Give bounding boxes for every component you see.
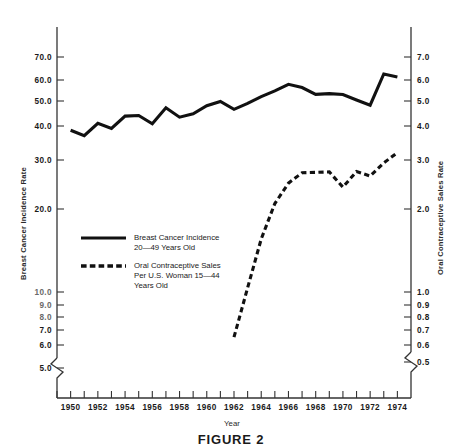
x-tick-label-1956: 1956 bbox=[142, 403, 162, 412]
left-tick-label-5: 5.0 bbox=[39, 364, 52, 373]
x-axis-tick-labels: 1950195219541956195819601962196419661968… bbox=[61, 403, 408, 412]
legend-label-line-3: Years Old bbox=[134, 281, 168, 290]
x-tick-label-1970: 1970 bbox=[333, 403, 353, 412]
right-tick-label-6: 6.0 bbox=[417, 76, 430, 85]
x-tick-label-1966: 1966 bbox=[279, 403, 299, 412]
x-tick-label-1972: 1972 bbox=[360, 403, 380, 412]
right-tick-label-0-9: 0.9 bbox=[417, 301, 430, 310]
x-axis-title: Year bbox=[224, 419, 240, 428]
figure-container: 70.0 60.0 50.0 40.0 30.0 20.0 10.0 9.0 8… bbox=[0, 0, 462, 446]
x-tick-label-1954: 1954 bbox=[115, 403, 135, 412]
right-tick-label-0-8: 0.8 bbox=[417, 313, 430, 322]
right-tick-label-0-5: 0.5 bbox=[417, 358, 430, 367]
figure-caption: FIGURE 2 bbox=[198, 432, 264, 446]
legend-item-breast-cancer-incidence: Breast Cancer Incidence 20—49 Years Old bbox=[81, 233, 219, 252]
right-axis-ticks: 7.0 6.0 5.0 4.0 3.0 2.0 1.0 0.9 0.8 0.7 … bbox=[404, 53, 430, 367]
right-tick-label-4: 4.0 bbox=[417, 122, 430, 131]
right-tick-label-1: 1.0 bbox=[417, 288, 430, 297]
x-tick-label-1960: 1960 bbox=[197, 403, 217, 412]
left-tick-label-10: 10.0 bbox=[34, 288, 52, 297]
left-tick-label-9: 9.0 bbox=[39, 301, 52, 310]
left-tick-label-8: 8.0 bbox=[39, 313, 52, 322]
right-tick-label-2: 2.0 bbox=[417, 205, 430, 214]
legend-item-oral-contraceptive-sales: Oral Contraceptive Sales Per U.S. Woman … bbox=[81, 261, 221, 290]
left-tick-label-50: 50.0 bbox=[34, 97, 52, 106]
right-tick-label-3: 3.0 bbox=[417, 156, 430, 165]
right-tick-label-7: 7.0 bbox=[417, 53, 430, 62]
left-axis-ticks: 70.0 60.0 50.0 40.0 30.0 20.0 10.0 9.0 8… bbox=[34, 53, 64, 373]
plot-area bbox=[71, 74, 398, 337]
right-tick-label-0-6: 0.6 bbox=[417, 341, 430, 350]
x-tick-label-1962: 1962 bbox=[224, 403, 244, 412]
x-tick-label-1950: 1950 bbox=[61, 403, 81, 412]
right-tick-label-0-7: 0.7 bbox=[417, 326, 430, 335]
y2-axis-title: Oral Contraceptive Sales Rate bbox=[436, 161, 445, 275]
series-line-oral-contraceptive-sales bbox=[234, 153, 397, 338]
x-tick-label-1964: 1964 bbox=[251, 403, 271, 412]
x-tick-label-1958: 1958 bbox=[170, 403, 190, 412]
legend-label-line-1: Oral Contraceptive Sales bbox=[134, 261, 221, 270]
x-tick-label-1952: 1952 bbox=[88, 403, 108, 412]
x-axis-ticks bbox=[57, 391, 397, 398]
axes-frame bbox=[51, 27, 417, 398]
right-axis-break bbox=[405, 352, 417, 398]
left-tick-label-6: 6.0 bbox=[39, 341, 52, 350]
legend-label-line-2: 20—49 Years Old bbox=[134, 243, 195, 252]
chart-canvas: 70.0 60.0 50.0 40.0 30.0 20.0 10.0 9.0 8… bbox=[0, 0, 462, 446]
left-tick-label-40: 40.0 bbox=[34, 122, 52, 131]
y-axis-title: Breast Cancer Incidence Rate bbox=[19, 167, 28, 280]
left-tick-label-30: 30.0 bbox=[34, 156, 52, 165]
legend-label-line-1: Breast Cancer Incidence bbox=[134, 233, 219, 242]
series-line-breast-cancer-incidence bbox=[71, 74, 398, 136]
left-tick-label-20: 20.0 bbox=[34, 205, 52, 214]
left-tick-label-7: 7.0 bbox=[39, 326, 52, 335]
left-tick-label-70: 70.0 bbox=[34, 53, 52, 62]
right-tick-label-5: 5.0 bbox=[417, 97, 430, 106]
left-tick-label-60: 60.0 bbox=[34, 76, 52, 85]
legend-label-line-2: Per U.S. Woman 15—44 bbox=[134, 271, 220, 280]
x-tick-label-1974: 1974 bbox=[387, 403, 407, 412]
legend: Breast Cancer Incidence 20—49 Years Old … bbox=[81, 233, 221, 290]
x-tick-label-1968: 1968 bbox=[306, 403, 326, 412]
